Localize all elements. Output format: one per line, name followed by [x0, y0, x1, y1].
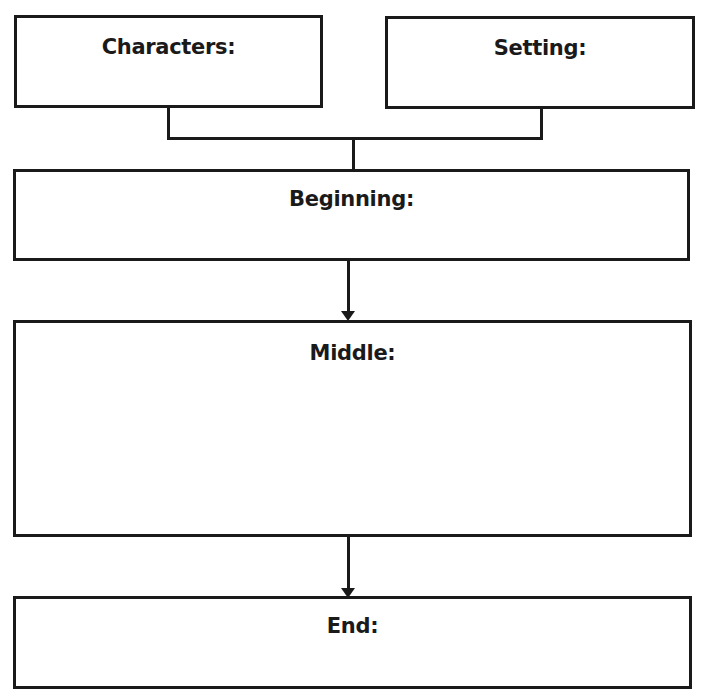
beginning-box[interactable]: Beginning: [13, 169, 690, 261]
end-box[interactable]: End: [13, 596, 692, 689]
connector-setting-down [540, 108, 543, 139]
characters-box[interactable]: Characters: [14, 15, 323, 108]
middle-label: Middle: [16, 341, 689, 365]
connector-to-beginning [352, 137, 355, 171]
setting-box[interactable]: Setting: [385, 16, 695, 109]
end-label: End: [16, 614, 689, 638]
beginning-label: Beginning: [16, 187, 687, 211]
setting-label: Setting: [388, 36, 692, 60]
connector-horizontal [167, 137, 543, 140]
arrow-beginning-to-middle-shaft [347, 260, 350, 312]
characters-label: Characters: [17, 35, 320, 59]
middle-box[interactable]: Middle: [13, 320, 692, 537]
arrow-middle-to-end-shaft [347, 536, 350, 589]
connector-characters-down [167, 107, 170, 139]
